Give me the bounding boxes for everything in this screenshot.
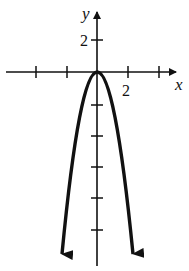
x-tick-label: 2 [122,82,130,99]
y-axis-label: y [80,4,90,23]
parabola-graph: y 2 2 x [0,0,189,271]
y-tick-label: 2 [80,32,88,49]
x-axis-label: x [174,75,183,94]
